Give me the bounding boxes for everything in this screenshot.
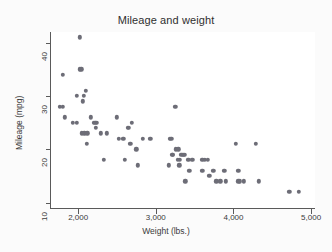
x-axis-line [50,208,315,209]
y-axis-line [50,32,51,209]
x-tick-label: 4,000 [223,213,243,222]
plot-title: Mileage and weight [0,14,332,26]
y-tick-label: 30 [40,95,49,125]
x-axis-title: Weight (lbs.) [0,226,332,236]
scatter-plot-figure: Mileage and weight 10203040 2,0003,0004,… [0,0,332,252]
y-tick-label: 40 [40,41,49,71]
x-tick-label: 3,000 [146,213,166,222]
y-axis-title: Mileage (mpg) [14,96,24,150]
y-tick-label: 20 [40,148,49,178]
x-tick-label: 5,000 [301,213,321,222]
x-tick-label: 2,000 [68,213,88,222]
